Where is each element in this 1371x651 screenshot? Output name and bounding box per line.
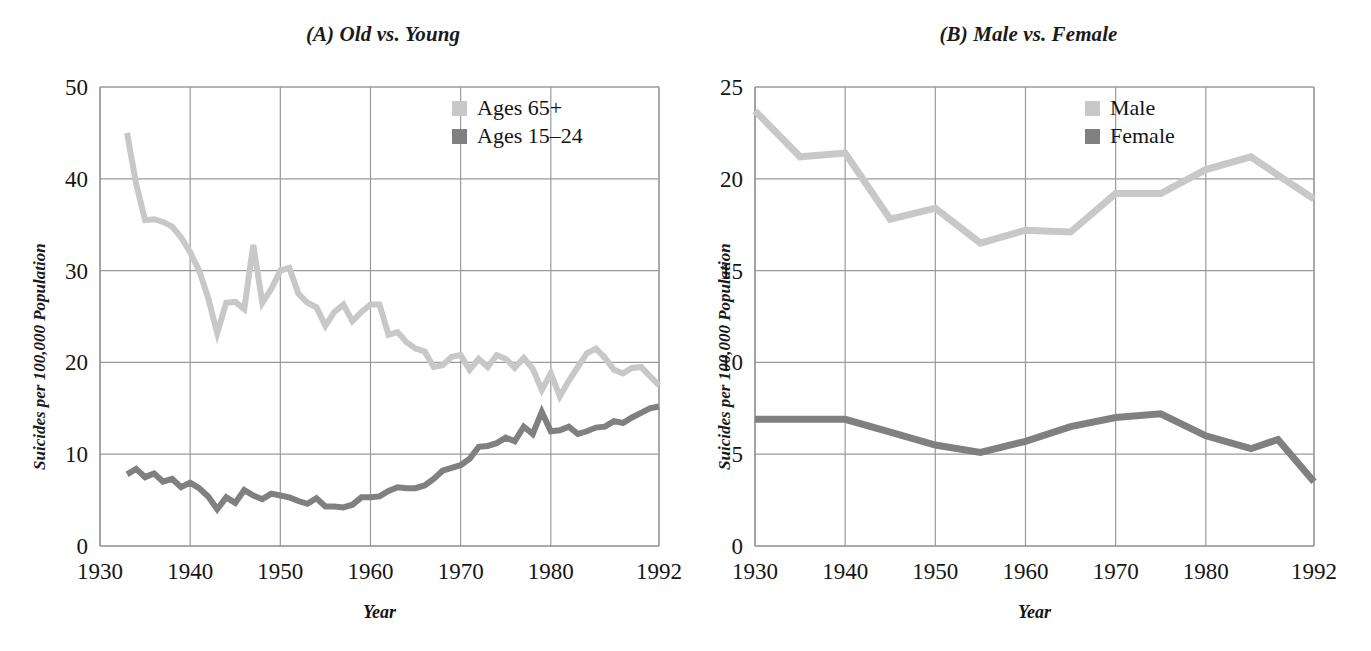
panel-b-plot: 05101520251930194019501960197019801992Ye… xyxy=(686,0,1371,651)
legend-swatch-1 xyxy=(1085,101,1100,116)
legend-label-1: Ages 65+ xyxy=(477,95,562,120)
x-tick-label: 1960 xyxy=(347,559,393,584)
y-tick-label: 15 xyxy=(720,259,743,284)
x-tick-label: 1980 xyxy=(528,559,574,584)
panel-b-male-vs-female: (B) Male vs. Female Suicides per 100,000… xyxy=(686,0,1371,651)
x-tick-label: 1930 xyxy=(732,559,778,584)
x-tick-label: 1930 xyxy=(77,559,123,584)
y-tick-label: 10 xyxy=(65,442,88,467)
plot-background xyxy=(100,87,659,546)
x-tick-label: 1940 xyxy=(167,559,213,584)
legend-label-1: Male xyxy=(1110,95,1155,120)
x-tick-label: 1950 xyxy=(912,559,958,584)
x-axis-label: Year xyxy=(363,602,397,622)
y-tick-label: 0 xyxy=(77,534,89,559)
legend-label-2: Ages 15–24 xyxy=(477,123,583,148)
x-tick-label: 1950 xyxy=(257,559,303,584)
x-axis-label: Year xyxy=(1018,602,1052,622)
x-tick-label: 1992 xyxy=(1291,559,1337,584)
y-tick-label: 10 xyxy=(720,350,743,375)
x-tick-label: 1960 xyxy=(1002,559,1048,584)
legend-swatch-2 xyxy=(1085,129,1100,144)
legend-swatch-1 xyxy=(452,101,467,116)
y-tick-label: 25 xyxy=(720,75,743,100)
x-tick-label: 1970 xyxy=(438,559,484,584)
suicide-rate-figure: (A) Old vs. Young Suicides per 100,000 P… xyxy=(0,0,1371,651)
y-tick-label: 20 xyxy=(720,167,743,192)
y-tick-label: 5 xyxy=(732,442,744,467)
y-tick-label: 50 xyxy=(65,75,88,100)
y-tick-label: 40 xyxy=(65,167,88,192)
y-tick-label: 0 xyxy=(732,534,744,559)
panel-a-plot: 010203040501930194019501960197019801992Y… xyxy=(0,0,686,651)
legend-swatch-2 xyxy=(452,129,467,144)
legend-label-2: Female xyxy=(1110,123,1175,148)
x-tick-label: 1980 xyxy=(1183,559,1229,584)
y-tick-label: 20 xyxy=(65,350,88,375)
y-tick-label: 30 xyxy=(65,259,88,284)
x-tick-label: 1992 xyxy=(636,559,682,584)
panel-a-old-vs-young: (A) Old vs. Young Suicides per 100,000 P… xyxy=(0,0,686,651)
x-tick-label: 1970 xyxy=(1093,559,1139,584)
x-tick-label: 1940 xyxy=(822,559,868,584)
